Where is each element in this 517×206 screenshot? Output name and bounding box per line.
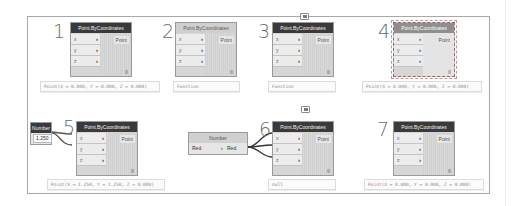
port-label: x [80, 135, 83, 141]
node-state-connected[interactable]: Point.ByCoordinates x› y› z› Point ||| [76, 121, 138, 176]
chevron-right-icon: › [419, 133, 421, 144]
input-port-z[interactable]: z› [394, 155, 423, 166]
output-port[interactable]: Point [316, 135, 331, 143]
number-input-node[interactable]: Number Red › Red [188, 132, 248, 155]
number-value-field[interactable]: Red [227, 143, 236, 153]
port-label: x [276, 36, 279, 42]
chevron-right-icon: › [201, 56, 203, 67]
port-label: x [276, 135, 279, 141]
chevron-right-icon: › [298, 56, 300, 67]
port-label: y [397, 47, 400, 53]
port-label: z [397, 58, 400, 64]
input-port-x[interactable]: x› [273, 133, 302, 144]
chevron-right-icon: › [201, 34, 203, 45]
state-number: 2 [162, 22, 174, 41]
lacing-icon[interactable]: ||| [448, 168, 451, 173]
port-label: y [179, 47, 182, 53]
node-state-error[interactable]: Point.ByCoordinates x› y› z› Point ||| [272, 121, 334, 176]
node-state-selected[interactable]: Point.ByCoordinates x› y› z› Point ||| [393, 22, 455, 77]
lacing-icon[interactable]: ||| [131, 168, 134, 173]
node-title: Point.ByCoordinates [273, 23, 333, 33]
input-port-y[interactable]: y› [394, 45, 423, 56]
input-port-x[interactable]: x› [71, 34, 100, 45]
input-port-y[interactable]: y› [273, 144, 302, 155]
chevron-right-icon: › [419, 56, 421, 67]
port-label: x [397, 36, 400, 42]
input-port-y[interactable]: y› [77, 144, 106, 155]
port-label: y [276, 146, 279, 152]
chevron-right-icon: › [102, 133, 104, 144]
port-label: z [397, 157, 400, 163]
chevron-right-icon: › [298, 34, 300, 45]
output-port[interactable]: Point [437, 135, 452, 143]
state-number: 1 [53, 22, 65, 41]
warning-bubble-icon[interactable] [300, 13, 309, 20]
port-label: z [276, 157, 279, 163]
input-port-x[interactable]: x› [394, 133, 423, 144]
node-state-inactive[interactable]: Point.ByCoordinates x› y› z› Point ||| [175, 22, 237, 77]
input-port-z[interactable]: z› [176, 56, 205, 67]
node-state-warning[interactable]: Point.ByCoordinates x› y› z› Point ||| [272, 22, 334, 77]
preview-bubble: Point(X = 0.000, Y = 0.000, Z = 0.000) [40, 81, 160, 92]
input-port-x[interactable]: x› [394, 34, 423, 45]
chevron-right-icon: › [298, 155, 300, 166]
chevron-right-icon: › [419, 144, 421, 155]
node-title: Number [189, 133, 247, 143]
input-port-z[interactable]: z› [77, 155, 106, 166]
input-port-z[interactable]: z› [273, 56, 302, 67]
input-port-z[interactable]: z› [394, 56, 423, 67]
port-label: z [74, 58, 77, 64]
input-port-y[interactable]: y› [273, 45, 302, 56]
input-port-x[interactable]: x› [77, 133, 106, 144]
node-title: Point.ByCoordinates [273, 122, 333, 132]
chevron-right-icon: › [201, 45, 203, 56]
port-label: y [80, 146, 83, 152]
lacing-icon[interactable]: ||| [230, 69, 233, 74]
port-label: x [74, 36, 77, 42]
lacing-icon[interactable]: ||| [327, 168, 330, 173]
chevron-right-icon: › [102, 155, 104, 166]
output-port[interactable]: Point [219, 36, 234, 44]
input-port-z[interactable]: z› [273, 155, 302, 166]
input-port-x[interactable]: x› [176, 34, 205, 45]
preview-bubble: Point(X = 0.000, Y = 0.000, Z = 0.000) [362, 81, 482, 92]
number-input-node[interactable]: Number 1.250 [30, 122, 52, 145]
output-port[interactable]: Point [114, 36, 129, 44]
input-port-y[interactable]: y› [71, 45, 100, 56]
preview-bubble: Function [173, 81, 240, 92]
chevron-right-icon: › [298, 144, 300, 155]
node-state-active[interactable]: Point.ByCoordinates x› y› z› Point ||| [70, 22, 132, 77]
state-number: 4 [378, 22, 390, 41]
node-title: Point.ByCoordinates [394, 122, 454, 132]
state-number: 5 [63, 118, 75, 137]
number-value-field[interactable]: 1.250 [33, 134, 52, 143]
port-label: x [397, 135, 400, 141]
input-port-y[interactable]: y› [176, 45, 205, 56]
lacing-icon[interactable]: ||| [448, 69, 451, 74]
output-port[interactable]: Point [316, 36, 331, 44]
chevron-right-icon: › [96, 56, 98, 67]
node-state-preview[interactable]: Point.ByCoordinates x› y› z› Point ||| [393, 121, 455, 176]
chevron-right-icon: › [298, 133, 300, 144]
warning-bubble-icon[interactable] [301, 106, 310, 113]
input-port-x[interactable]: x› [273, 34, 302, 45]
node-title: Point.ByCoordinates [77, 122, 137, 132]
node-title: Point.ByCoordinates [176, 23, 236, 33]
node-title: Point.ByCoordinates [71, 23, 131, 33]
port-label: y [74, 47, 77, 53]
input-port-y[interactable]: y› [394, 144, 423, 155]
chevron-right-icon: › [419, 34, 421, 45]
lacing-icon[interactable]: ||| [125, 69, 128, 74]
state-number: 6 [259, 120, 271, 139]
lacing-icon[interactable]: ||| [327, 69, 330, 74]
port-label: z [276, 58, 279, 64]
port-label: z [179, 58, 182, 64]
output-port[interactable]: Point [120, 135, 135, 143]
input-port-z[interactable]: z› [71, 56, 100, 67]
preview-bubble: null [268, 179, 336, 190]
chevron-right-icon: › [298, 45, 300, 56]
port-label: z [80, 157, 83, 163]
output-port[interactable]: Point [437, 36, 452, 44]
input-label: Red [192, 145, 201, 151]
chevron-right-icon: › [102, 144, 104, 155]
